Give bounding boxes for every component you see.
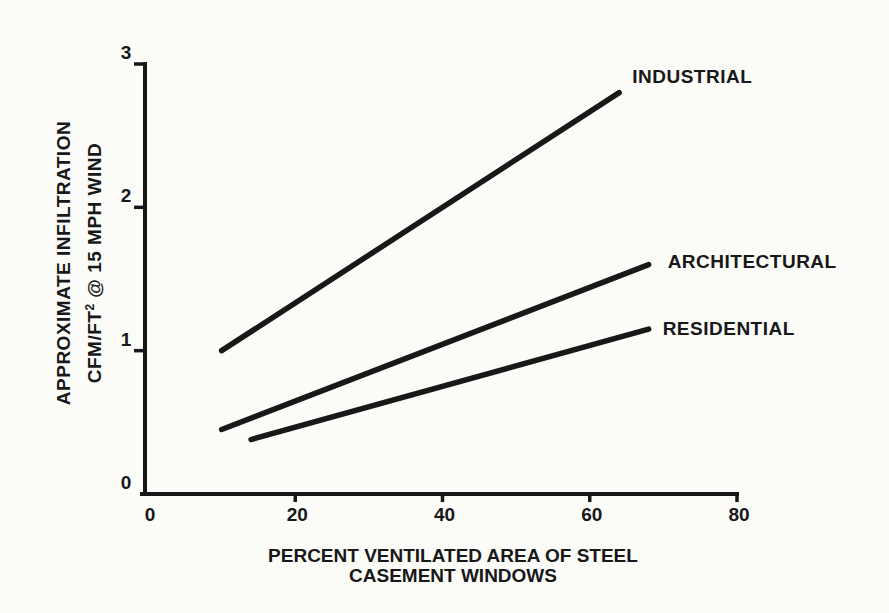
- y-tick-label-0: 0: [121, 472, 132, 494]
- series-label-architectural: ARCHITECTURAL: [668, 251, 837, 273]
- y-tick-label-1: 1: [121, 329, 132, 351]
- x-axis-title-line1: PERCENT VENTILATED AREA OF STEEL: [268, 546, 638, 566]
- x-tick-label-60: 60: [581, 504, 602, 526]
- y-axis-title-line1: APPROXIMATE INFILTRATION: [48, 121, 79, 405]
- x-tick-label-40: 40: [434, 504, 455, 526]
- y-axis-unit-prefix: CFM/FT: [84, 311, 105, 384]
- y-tick-label-3: 3: [121, 42, 132, 64]
- infiltration-line-chart: APPROXIMATE INFILTRATION CFM/FT2 @ 15 MP…: [0, 0, 889, 613]
- x-tick-label-80: 80: [728, 504, 749, 526]
- x-tick-label-0: 0: [145, 504, 156, 526]
- y-axis-unit-superscript: 2: [83, 303, 97, 310]
- series-label-industrial: INDUSTRIAL: [632, 66, 752, 88]
- y-axis-unit-suffix: @ 15 MPH WIND: [84, 143, 105, 304]
- series-label-residential: RESIDENTIAL: [663, 318, 795, 340]
- x-axis-title: PERCENT VENTILATED AREA OF STEEL CASEMEN…: [268, 546, 638, 586]
- y-axis-title-line2: CFM/FT2 @ 15 MPH WIND: [79, 121, 110, 405]
- y-tick-label-2: 2: [121, 185, 132, 207]
- y-axis-title: APPROXIMATE INFILTRATION CFM/FT2 @ 15 MP…: [48, 121, 110, 405]
- chart-label-overlay: APPROXIMATE INFILTRATION CFM/FT2 @ 15 MP…: [0, 0, 889, 613]
- x-tick-label-20: 20: [287, 504, 308, 526]
- x-axis-title-line2: CASEMENT WINDOWS: [268, 566, 638, 586]
